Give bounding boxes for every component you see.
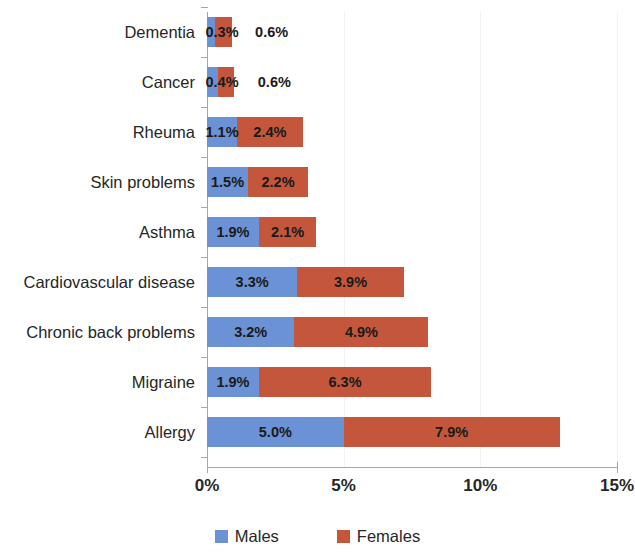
gridline-5	[344, 12, 345, 467]
data-label-males: 1.5%	[211, 167, 244, 197]
y-axis-tick	[201, 207, 208, 208]
data-label-females: 2.4%	[253, 117, 286, 147]
x-axis-start-cap	[207, 462, 208, 473]
data-label-males: 0.3%	[205, 17, 238, 47]
stacked-bar-chart: Dementia0.3%0.6%Cancer0.4%0.6%Rheuma1.1%…	[0, 0, 635, 556]
gridline-15	[617, 12, 618, 467]
category-label: Dementia	[0, 17, 200, 47]
x-axis-tick-label: 10%	[463, 476, 497, 496]
category-label: Asthma	[0, 217, 200, 247]
category-label: Rheuma	[0, 117, 200, 147]
legend-swatch-icon	[337, 530, 350, 543]
data-label-males: 5.0%	[259, 417, 292, 447]
category-label: Allergy	[0, 417, 200, 447]
y-axis-tick	[201, 107, 208, 108]
legend-item[interactable]: Females	[337, 527, 420, 546]
data-label-females: 0.6%	[258, 67, 291, 97]
legend-swatch-icon	[215, 530, 228, 543]
data-label-males: 0.4%	[205, 67, 238, 97]
x-axis-tick-label: 5%	[331, 476, 356, 496]
data-label-females: 7.9%	[435, 417, 468, 447]
y-axis-tick	[201, 357, 208, 358]
y-axis-tick	[201, 457, 208, 458]
data-label-males: 1.9%	[216, 367, 249, 397]
legend-label: Males	[235, 527, 279, 546]
data-label-males: 3.3%	[236, 267, 269, 297]
data-label-females: 0.6%	[255, 17, 288, 47]
data-label-females: 4.9%	[345, 317, 378, 347]
gridline-10	[480, 12, 481, 467]
legend-label: Females	[357, 527, 420, 546]
y-axis-tick	[201, 407, 208, 408]
data-label-females: 2.2%	[262, 167, 295, 197]
category-label: Cardiovascular disease	[0, 267, 200, 297]
legend-item[interactable]: Males	[215, 527, 279, 546]
category-label: Migraine	[0, 367, 200, 397]
x-axis-tick-label: 0%	[195, 476, 220, 496]
y-axis-tick	[201, 257, 208, 258]
category-label: Cancer	[0, 67, 200, 97]
x-axis-tick-label: 15%	[600, 476, 634, 496]
data-label-females: 2.1%	[271, 217, 304, 247]
chart-legend: MalesFemales	[0, 527, 635, 546]
x-axis-line	[207, 467, 618, 468]
data-label-males: 1.9%	[216, 217, 249, 247]
category-label: Skin problems	[0, 167, 200, 197]
data-label-males: 1.1%	[206, 117, 239, 147]
y-axis-tick	[201, 57, 208, 58]
y-axis-tick	[201, 157, 208, 158]
category-label: Chronic back problems	[0, 317, 200, 347]
y-axis-tick	[201, 307, 208, 308]
x-axis-end-cap	[617, 462, 618, 473]
data-label-females: 3.9%	[334, 267, 367, 297]
data-label-males: 3.2%	[234, 317, 267, 347]
data-label-females: 6.3%	[329, 367, 362, 397]
y-axis-tick	[201, 7, 208, 8]
